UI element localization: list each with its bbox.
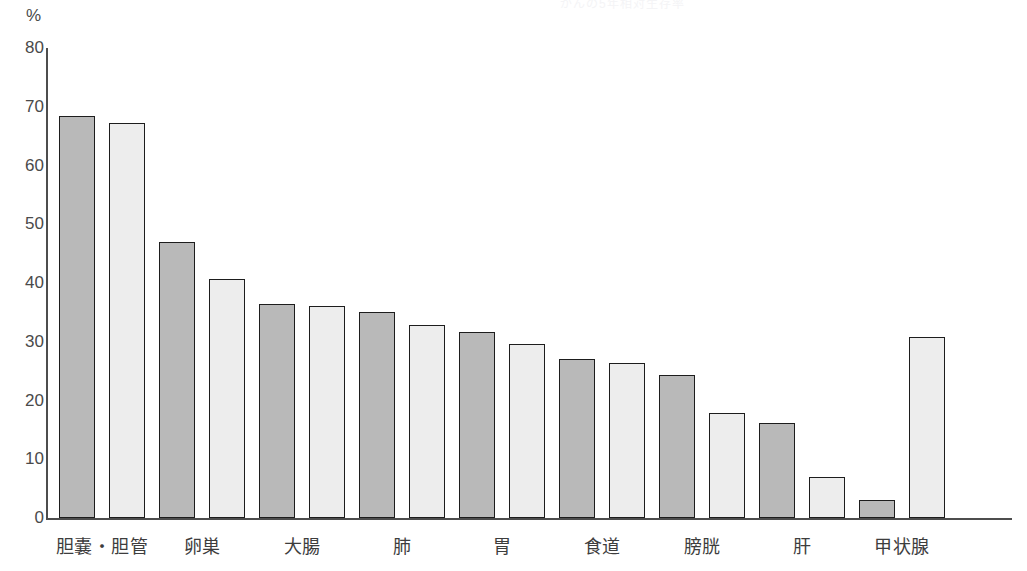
x-axis-category-label: 卵巣: [184, 532, 221, 558]
x-axis-category-label: 膀胱: [684, 532, 721, 558]
plot-area: [46, 48, 1012, 518]
bar: [109, 123, 145, 518]
x-axis-category-label: 食道: [584, 532, 621, 558]
bar: [659, 375, 695, 518]
bar: [309, 306, 345, 518]
bar: [909, 337, 945, 518]
x-axis-category-label: 肝: [793, 532, 812, 558]
x-axis-category-label: 甲状腺: [874, 532, 930, 558]
y-axis-tick-labels: 01020304050607080: [10, 0, 44, 571]
y-axis-tick-label: 40: [10, 273, 44, 293]
bar: [709, 413, 745, 518]
bar: [759, 423, 795, 518]
cut-off-title: がんの5年相対生存率: [560, 0, 730, 9]
bar: [559, 359, 595, 518]
x-axis-line: [46, 518, 1012, 520]
bar: [609, 363, 645, 518]
x-axis-category-label: 大腸: [284, 532, 321, 558]
x-axis-category-label: 肺: [393, 532, 412, 558]
y-axis-tick-label: 70: [10, 97, 44, 117]
y-axis-tick-label: 0: [10, 508, 44, 528]
bar: [159, 242, 195, 518]
y-axis-tick-label: 60: [10, 156, 44, 176]
y-axis-tick-label: 80: [10, 38, 44, 58]
bar: [409, 325, 445, 518]
bar: [859, 500, 895, 518]
chart-root: がんの5年相対生存率 % 01020304050607080 胆嚢・胆管卵巣大腸…: [0, 0, 1027, 571]
bar: [459, 332, 495, 518]
y-axis-tick-label: 50: [10, 214, 44, 234]
bar: [209, 279, 245, 518]
x-axis-category-label: 胃: [493, 532, 512, 558]
y-axis-tick-label: 20: [10, 391, 44, 411]
y-axis-tick-label: 30: [10, 332, 44, 352]
bar: [59, 116, 95, 518]
bar: [809, 477, 845, 518]
bar: [359, 312, 395, 518]
y-axis-tick-label: 10: [10, 449, 44, 469]
bar: [509, 344, 545, 518]
bar: [259, 304, 295, 518]
x-axis-category-label: 胆嚢・胆管: [56, 532, 149, 558]
